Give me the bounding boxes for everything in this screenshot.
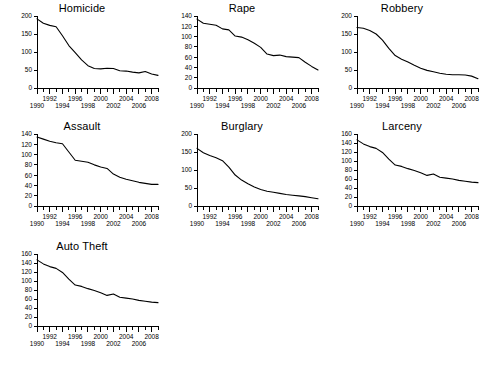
- x-tick-label: 2008: [304, 95, 319, 102]
- y-tick-label: 0: [348, 202, 352, 209]
- y-tick-label: 160: [341, 130, 352, 137]
- y-tick-label: 60: [345, 175, 353, 182]
- y-tick-label: 140: [21, 259, 32, 266]
- data-series-line: [37, 19, 158, 76]
- x-tick-label: 2000: [413, 95, 428, 102]
- x-tick-label: 1996: [228, 213, 243, 220]
- data-series-line: [37, 137, 158, 184]
- x-tick-label: 2000: [93, 213, 108, 220]
- x-tick-label: 1990: [350, 102, 365, 109]
- x-tick-label: 1996: [68, 333, 83, 340]
- y-tick-label: 150: [181, 148, 192, 155]
- x-tick-label: 2004: [439, 213, 454, 220]
- x-tick-label: 2004: [439, 95, 454, 102]
- x-tick-label: 2002: [426, 220, 441, 227]
- plot-area: 0204060801001201401601990199219941996199…: [0, 238, 164, 358]
- x-tick-label: 2002: [266, 102, 281, 109]
- y-tick-label: 120: [181, 23, 192, 30]
- x-tick-label: 2006: [132, 220, 147, 227]
- x-tick-label: 2008: [144, 213, 159, 220]
- x-tick-label: 2006: [292, 102, 307, 109]
- x-tick-label: 1996: [388, 213, 403, 220]
- x-tick-label: 1994: [375, 220, 390, 227]
- x-tick-label: 2000: [93, 95, 108, 102]
- y-tick-label: 140: [181, 12, 192, 19]
- x-tick-label: 2000: [93, 333, 108, 340]
- y-tick-label: 50: [345, 66, 353, 73]
- x-tick-label: 1996: [68, 95, 83, 102]
- y-tick-label: 100: [21, 48, 32, 55]
- y-tick-label: 160: [21, 250, 32, 257]
- y-tick-label: 120: [21, 268, 32, 275]
- x-tick-label: 1998: [401, 102, 416, 109]
- y-tick-label: 200: [341, 12, 352, 19]
- plot-area: 0501001502001990199219941996199820002002…: [160, 118, 324, 238]
- y-tick-label: 60: [25, 295, 33, 302]
- x-tick-label: 2002: [106, 102, 121, 109]
- y-tick-label: 60: [25, 172, 33, 179]
- y-tick-label: 40: [185, 64, 193, 71]
- y-tick-label: 0: [188, 84, 192, 91]
- x-tick-label: 1994: [55, 220, 70, 227]
- x-tick-label: 2006: [452, 220, 467, 227]
- x-tick-label: 2004: [279, 213, 294, 220]
- x-tick-label: 2004: [119, 213, 134, 220]
- x-tick-label: 2006: [132, 102, 147, 109]
- x-tick-label: 1998: [241, 102, 256, 109]
- chart-panel-burglary: Burglary05010015020019901992199419961998…: [160, 118, 324, 238]
- x-tick-label: 2008: [464, 213, 479, 220]
- x-tick-label: 2000: [253, 213, 268, 220]
- x-tick-label: 1992: [363, 213, 378, 220]
- small-multiples-figure: Homicide05010015020019901992199419961998…: [0, 0, 491, 366]
- y-tick-label: 0: [348, 84, 352, 91]
- x-tick-label: 1994: [55, 340, 70, 347]
- x-tick-label: 2006: [452, 102, 467, 109]
- y-tick-label: 60: [185, 54, 193, 61]
- chart-panel-rape: Rape020406080100120140199019921994199619…: [160, 0, 324, 120]
- y-tick-label: 0: [28, 202, 32, 209]
- x-tick-label: 1994: [215, 102, 230, 109]
- y-tick-label: 0: [28, 84, 32, 91]
- x-tick-label: 1992: [43, 213, 58, 220]
- chart-panel-robbery: Robbery050100150200199019921994199619982…: [320, 0, 484, 120]
- y-tick-label: 0: [28, 322, 32, 329]
- x-tick-label: 2000: [253, 95, 268, 102]
- y-tick-label: 140: [341, 139, 352, 146]
- x-tick-label: 2006: [132, 340, 147, 347]
- y-tick-label: 0: [188, 202, 192, 209]
- x-tick-label: 2008: [464, 95, 479, 102]
- x-tick-label: 1990: [30, 102, 45, 109]
- y-tick-label: 80: [185, 43, 193, 50]
- y-tick-label: 40: [25, 304, 33, 311]
- y-tick-label: 20: [25, 313, 33, 320]
- y-tick-label: 100: [21, 151, 32, 158]
- x-tick-label: 1994: [55, 102, 70, 109]
- x-tick-label: 2002: [106, 220, 121, 227]
- x-tick-label: 2002: [266, 220, 281, 227]
- x-tick-label: 2006: [292, 220, 307, 227]
- y-tick-label: 100: [341, 157, 352, 164]
- x-tick-label: 1992: [43, 95, 58, 102]
- x-tick-label: 1996: [228, 95, 243, 102]
- data-series-line: [37, 260, 158, 303]
- x-tick-label: 2004: [119, 333, 134, 340]
- x-tick-label: 1990: [30, 220, 45, 227]
- x-tick-label: 2002: [106, 340, 121, 347]
- plot-area: 0204060801001201401990199219941996199820…: [160, 0, 324, 120]
- data-series-line: [197, 148, 318, 198]
- data-series-line: [357, 140, 478, 183]
- x-tick-label: 1990: [350, 220, 365, 227]
- x-tick-label: 1998: [81, 220, 96, 227]
- y-tick-label: 150: [341, 30, 352, 37]
- x-tick-label: 2000: [413, 213, 428, 220]
- plot-area: 0204060801001201401601990199219941996199…: [320, 118, 484, 238]
- x-tick-label: 1998: [401, 220, 416, 227]
- y-tick-label: 150: [21, 30, 32, 37]
- y-tick-label: 20: [185, 74, 193, 81]
- data-series-line: [197, 19, 318, 70]
- x-tick-label: 2008: [144, 95, 159, 102]
- y-tick-label: 80: [25, 161, 33, 168]
- chart-panel-larceny: Larceny020406080100120140160199019921994…: [320, 118, 484, 238]
- x-tick-label: 1998: [81, 340, 96, 347]
- y-tick-label: 140: [21, 130, 32, 137]
